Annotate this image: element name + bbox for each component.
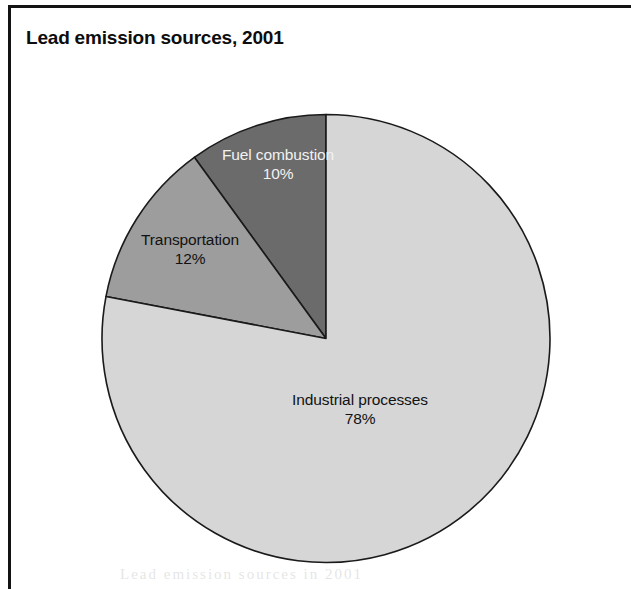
- pie-label-transportation: Transportation 12%: [110, 230, 270, 268]
- pie-label-fuel-combustion: Fuel combustion 10%: [218, 145, 338, 183]
- pie-label-industrial-processes-value: 78%: [265, 409, 455, 428]
- scan-bleed-through-text: Lead emission sources in 2001: [120, 566, 590, 586]
- pie-label-industrial-processes: Industrial processes 78%: [265, 390, 455, 428]
- pie-label-fuel-combustion-name: Fuel combustion: [218, 145, 338, 164]
- figure-page: Lead emission sources, 2001 Fuel combust…: [0, 0, 631, 589]
- pie-label-transportation-name: Transportation: [110, 230, 270, 249]
- pie-chart: Fuel combustion 10% Transportation 12% I…: [0, 0, 631, 589]
- pie-label-industrial-processes-name: Industrial processes: [265, 390, 455, 409]
- pie-label-transportation-value: 12%: [110, 249, 270, 268]
- pie-chart-svg: [0, 0, 631, 589]
- pie-label-fuel-combustion-value: 10%: [218, 164, 338, 183]
